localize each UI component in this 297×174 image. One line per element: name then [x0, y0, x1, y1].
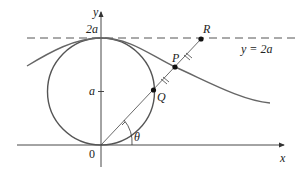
point-label-R: R	[202, 22, 211, 36]
origin-label: 0	[89, 147, 95, 161]
angle-arc	[124, 120, 132, 145]
point-label-Q: Q	[157, 90, 166, 104]
x-axis-label: x	[279, 151, 286, 165]
equal-tick-qp	[161, 77, 169, 84]
tick-label-2a: 2a	[86, 22, 98, 36]
point-P	[172, 64, 177, 69]
point-label-P: P	[171, 51, 180, 65]
witch-of-agnesi-diagram: y x 0 2a a y = 2a R P Q θ	[0, 0, 297, 174]
witch-curve	[27, 38, 270, 103]
point-Q	[151, 87, 156, 92]
tick-label-a: a	[89, 84, 95, 98]
line-label-y-2a: y = 2a	[240, 42, 272, 56]
line-origin-to-R	[101, 39, 201, 145]
point-R	[198, 36, 203, 41]
y-axis-label: y	[92, 5, 99, 19]
angle-label-theta: θ	[134, 130, 140, 144]
equal-tick-pr	[184, 53, 192, 60]
